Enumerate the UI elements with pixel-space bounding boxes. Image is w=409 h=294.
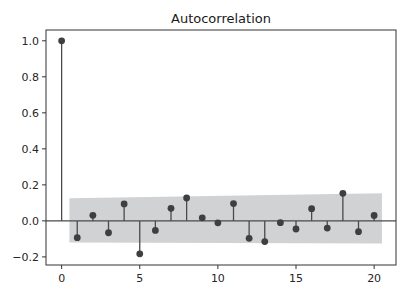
y-axis-ticks: −0.20.00.20.40.60.81.0: [12, 35, 46, 264]
acf-marker: [293, 226, 300, 233]
x-tick-label: 15: [289, 272, 303, 285]
y-tick-label: 0.0: [22, 215, 40, 228]
confidence-band: [69, 193, 382, 243]
acf-stem: [58, 37, 65, 220]
acf-marker: [58, 37, 65, 44]
y-tick-label: 0.4: [22, 143, 40, 156]
acf-marker: [74, 234, 81, 241]
acf-marker: [105, 229, 112, 236]
acf-marker: [371, 212, 378, 219]
confidence-band-area: [69, 193, 382, 243]
acf-marker: [199, 214, 206, 221]
acf-marker: [355, 228, 362, 235]
acf-marker: [339, 190, 346, 197]
acf-marker: [168, 205, 175, 212]
acf-stem: [199, 214, 206, 221]
x-tick-label: 20: [367, 272, 381, 285]
acf-marker: [261, 238, 268, 245]
autocorrelation-chart: Autocorrelation 05101520 −0.20.00.20.40.…: [0, 0, 409, 294]
x-tick-label: 5: [136, 272, 143, 285]
chart-title: Autocorrelation: [171, 11, 271, 26]
acf-marker: [277, 219, 284, 226]
x-axis-ticks: 05101520: [58, 265, 381, 285]
acf-marker: [152, 227, 159, 234]
acf-marker: [183, 195, 190, 202]
acf-marker: [89, 212, 96, 219]
x-tick-label: 0: [58, 272, 65, 285]
y-tick-label: 1.0: [22, 35, 40, 48]
acf-marker: [214, 219, 221, 226]
acf-marker: [136, 250, 143, 257]
acf-marker: [230, 200, 237, 207]
acf-stem: [277, 219, 284, 226]
acf-marker: [121, 201, 128, 208]
acf-marker: [308, 205, 315, 212]
acf-marker: [246, 235, 253, 242]
y-tick-label: 0.8: [22, 71, 40, 84]
y-tick-label: 0.2: [22, 179, 40, 192]
x-tick-label: 10: [211, 272, 225, 285]
y-tick-label: 0.6: [22, 107, 40, 120]
acf-stem: [214, 219, 221, 226]
y-tick-label: −0.2: [12, 251, 39, 264]
acf-marker: [324, 225, 331, 232]
